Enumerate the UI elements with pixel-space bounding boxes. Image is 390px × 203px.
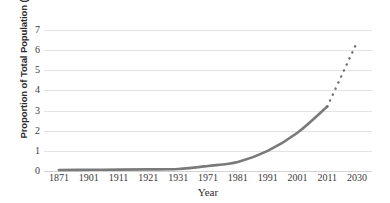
y-tick-label: 0: [24, 166, 40, 176]
y-tick-label: 7: [24, 25, 40, 35]
x-axis-tick-labels: 1871190119111921193119711981199120012011…: [44, 172, 372, 186]
x-axis-title: Year: [44, 186, 372, 198]
y-axis-tick-labels: 01234567: [24, 30, 40, 171]
y-tick-label: 2: [24, 126, 40, 136]
y-tick-label: 3: [24, 106, 40, 116]
y-tick-label: 6: [24, 45, 40, 55]
series-layer: [44, 30, 372, 171]
series-observed-line: [59, 107, 327, 170]
chart-figure: Proportion of Total Population (%) 01234…: [0, 0, 390, 203]
y-tick-label: 1: [24, 146, 40, 156]
y-tick-label: 5: [24, 65, 40, 75]
y-tick-label: 4: [24, 85, 40, 95]
series-projected-line: [327, 42, 357, 106]
plot-area: [44, 30, 372, 171]
x-tick-label: 2030: [337, 172, 377, 184]
